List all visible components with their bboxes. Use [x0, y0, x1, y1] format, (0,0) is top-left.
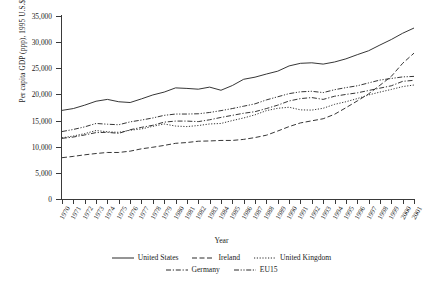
x-tick	[323, 199, 324, 204]
x-tick	[176, 199, 177, 204]
y-tick-label: 35,000	[0, 12, 52, 21]
x-tick-label: 1994	[331, 205, 344, 220]
legend-item-united-kingdom[interactable]: United Kingdom	[254, 252, 331, 264]
y-tick-label: 10,000	[0, 142, 52, 151]
x-tick-label: 1979	[160, 205, 173, 220]
series-line-united-kingdom	[62, 85, 414, 138]
x-tick-label: 1999	[387, 205, 400, 220]
legend-item-germany[interactable]: Germany	[166, 264, 220, 276]
x-tick	[335, 199, 336, 204]
x-tick	[266, 199, 267, 204]
x-tick-label: 1988	[262, 205, 275, 220]
legend-label: EU15	[260, 264, 278, 276]
x-tick-label: 1975	[115, 205, 128, 220]
y-tick-label: 15,000	[0, 116, 52, 125]
y-tick-label: 5,000	[0, 168, 52, 177]
x-tick-label: 1992	[308, 205, 321, 220]
legend-item-ireland[interactable]: Ireland	[192, 252, 240, 264]
legend-swatch-dashdotdot	[234, 267, 256, 273]
x-tick-label: 1978	[149, 205, 162, 220]
series-line-germany	[62, 80, 414, 138]
x-tick	[130, 199, 131, 204]
x-tick	[278, 199, 279, 204]
x-tick-label: 1980	[172, 205, 185, 220]
x-tick	[119, 199, 120, 204]
x-tick-label: 1972	[81, 205, 94, 220]
legend-swatch-dashed	[192, 255, 214, 261]
legend-label: United Kingdom	[280, 252, 331, 264]
x-tick	[357, 199, 358, 204]
legend-item-eu15[interactable]: EU15	[234, 264, 278, 276]
x-tick-label: 1996	[353, 205, 366, 220]
x-tick	[187, 199, 188, 204]
x-tick	[73, 199, 74, 204]
x-tick-label: 1974	[104, 205, 117, 220]
legend-swatch-dotted	[254, 255, 276, 261]
x-tick	[289, 199, 290, 204]
series-line-ireland	[62, 53, 414, 158]
x-tick	[141, 199, 142, 204]
x-tick	[198, 199, 199, 204]
x-tick-label: 1991	[297, 205, 310, 220]
legend-row-1: United StatesIrelandUnited Kingdom	[0, 252, 443, 264]
y-tick-label: 30,000	[0, 38, 52, 47]
x-tick	[391, 199, 392, 204]
x-tick	[380, 199, 381, 204]
series-lines	[62, 16, 414, 199]
legend-label: Germany	[192, 264, 220, 276]
x-tick-label: 1983	[206, 205, 219, 220]
y-tick-label: 20,000	[0, 90, 52, 99]
x-tick	[85, 199, 86, 204]
x-tick-label: 1982	[194, 205, 207, 220]
legend-label: United States	[138, 252, 179, 264]
x-tick	[107, 199, 108, 204]
x-tick-label: 1989	[274, 205, 287, 220]
x-tick	[164, 199, 165, 204]
x-tick	[255, 199, 256, 204]
legend-row-2: GermanyEU15	[0, 264, 443, 276]
x-tick-label: 1971	[69, 205, 82, 220]
x-tick-label: 1997	[365, 205, 378, 220]
series-line-eu15	[62, 76, 414, 131]
x-tick-label: 1970	[58, 205, 71, 220]
x-tick	[369, 199, 370, 204]
x-tick-label: 1985	[228, 205, 241, 220]
x-tick	[244, 199, 245, 204]
x-tick-label: 1986	[240, 205, 253, 220]
x-tick	[403, 199, 404, 204]
x-tick	[346, 199, 347, 204]
chart-legend: United StatesIrelandUnited Kingdom Germa…	[0, 252, 443, 276]
x-tick-label: 1993	[319, 205, 332, 220]
x-tick-label: 1977	[138, 205, 151, 220]
x-tick	[221, 199, 222, 204]
y-tick-label: 25,000	[0, 64, 52, 73]
x-tick-label: 2000	[399, 205, 412, 220]
legend-swatch-solid	[112, 255, 134, 261]
plot-area	[62, 16, 414, 199]
legend-item-united-states[interactable]: United States	[112, 252, 179, 264]
x-tick	[300, 199, 301, 204]
y-tick-label: 0	[0, 195, 52, 204]
x-tick	[210, 199, 211, 204]
x-tick	[153, 199, 154, 204]
x-tick	[414, 199, 415, 204]
legend-swatch-dashdot	[166, 267, 188, 273]
x-axis-label: Year	[0, 236, 443, 245]
x-tick	[232, 199, 233, 204]
legend-label: Ireland	[218, 252, 240, 264]
x-tick	[62, 199, 63, 204]
chart-figure: Per capita GDP (ppp), 1995 U.S.$ 05,0001…	[0, 0, 443, 287]
x-tick	[312, 199, 313, 204]
x-axis-line	[61, 199, 414, 200]
x-tick	[96, 199, 97, 204]
